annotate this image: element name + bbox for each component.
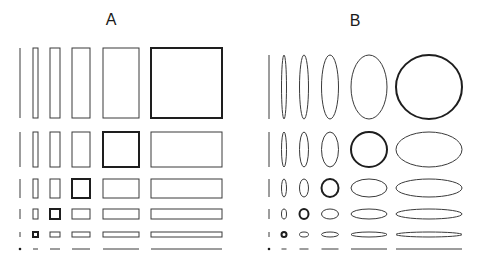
rectangle-shape <box>50 132 60 167</box>
ellipse-shape <box>396 132 462 167</box>
rectangle-shape-highlighted <box>50 209 60 219</box>
ellipse-shape <box>351 232 387 237</box>
rectangle-shape <box>33 209 38 219</box>
ellipse-shape-highlighted <box>268 248 271 251</box>
rectangle-shape-highlighted <box>33 232 38 237</box>
panel-b-ellipses-grid <box>268 55 462 250</box>
ellipse-shape <box>322 209 339 219</box>
rectangle-shape <box>72 209 90 219</box>
rectangle-shape <box>151 209 222 219</box>
rectangle-shape <box>50 179 60 198</box>
ellipse-shape-highlighted <box>300 209 309 219</box>
rectangle-shape-highlighted <box>19 248 22 251</box>
ellipse-shape <box>351 55 387 119</box>
rectangle-shape <box>72 132 90 167</box>
rectangle-shape <box>151 179 222 198</box>
ellipse-shape <box>396 179 462 197</box>
shape-grid-figure <box>0 0 479 259</box>
ellipse-shape <box>351 179 387 197</box>
rectangle-shape-highlighted <box>103 132 139 167</box>
rectangle-shape <box>33 132 38 167</box>
ellipse-shape <box>300 132 309 167</box>
ellipse-shape-highlighted <box>351 132 387 167</box>
rectangle-shape-highlighted <box>72 179 90 198</box>
ellipse-shape <box>282 209 287 219</box>
ellipse-shape-highlighted <box>322 179 339 197</box>
rectangle-shape <box>151 132 222 167</box>
rectangle-shape <box>151 232 222 237</box>
ellipse-shape <box>396 209 462 219</box>
rectangle-shape <box>103 232 139 237</box>
ellipse-shape <box>300 232 309 237</box>
ellipse-shape <box>322 55 339 119</box>
rectangle-shape <box>103 48 139 118</box>
rectangle-shape <box>72 48 90 118</box>
rectangle-shape <box>103 209 139 219</box>
ellipse-shape <box>322 132 339 167</box>
ellipse-shape <box>300 55 309 119</box>
ellipse-shape-highlighted <box>396 55 462 119</box>
rectangle-shape <box>50 232 60 237</box>
ellipse-shape <box>282 179 287 197</box>
ellipse-shape <box>351 209 387 219</box>
rectangle-shape <box>103 179 139 198</box>
ellipse-shape <box>300 179 309 197</box>
rectangle-shape <box>72 232 90 237</box>
rectangle-shape <box>33 48 38 118</box>
ellipse-shape <box>322 232 339 237</box>
ellipse-shape <box>282 55 287 119</box>
panel-a-rectangles-grid <box>19 48 222 250</box>
rectangle-shape <box>50 48 60 118</box>
rectangle-shape <box>33 179 38 198</box>
ellipse-shape-highlighted <box>282 232 287 237</box>
ellipse-shape <box>282 132 287 167</box>
ellipse-shape <box>396 232 462 237</box>
rectangle-shape-highlighted <box>151 48 222 118</box>
